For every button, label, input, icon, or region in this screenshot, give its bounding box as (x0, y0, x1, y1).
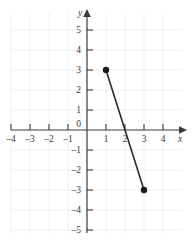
y-tick-label--4: –4 (71, 205, 82, 215)
x-tick-labels: –4 –3 –2 –1 1 2 3 4 (5, 134, 165, 144)
y-axis (83, 9, 91, 233)
y-tick-label-5: 5 (76, 25, 81, 35)
y-tick-label-3: 3 (76, 65, 81, 75)
y-tick-label-1: 1 (76, 105, 81, 115)
y-tick-label-4: 4 (76, 45, 81, 55)
y-tick-label-2: 2 (76, 85, 81, 95)
x-tick-label-4: 4 (161, 134, 166, 144)
endpoint-upper (103, 67, 109, 73)
y-tick-label--2: –2 (71, 165, 82, 175)
x-tick-label-3: 3 (142, 134, 147, 144)
x-tick-label--1: –1 (62, 134, 73, 144)
origin-label: 0 (76, 119, 81, 129)
x-axis-label: x (177, 134, 183, 144)
y-axis-label: y (77, 8, 83, 18)
endpoint-lower (141, 187, 147, 193)
x-tick-label--2: –2 (43, 134, 54, 144)
grid-lines (11, 13, 182, 233)
x-axis (11, 126, 187, 134)
y-tick-label--1: –1 (71, 145, 82, 155)
x-tick-label--4: –4 (5, 134, 16, 144)
y-tick-label--3: –3 (71, 185, 82, 195)
coordinate-graph: –4 –3 –2 –1 1 2 3 4 5 4 3 2 1 –1 –2 –3 –… (0, 0, 194, 245)
graph-canvas: –4 –3 –2 –1 1 2 3 4 5 4 3 2 1 –1 –2 –3 –… (0, 0, 194, 245)
x-tick-label--3: –3 (24, 134, 35, 144)
y-tick-label--5: –5 (71, 225, 82, 235)
x-tick-label-1: 1 (104, 134, 109, 144)
